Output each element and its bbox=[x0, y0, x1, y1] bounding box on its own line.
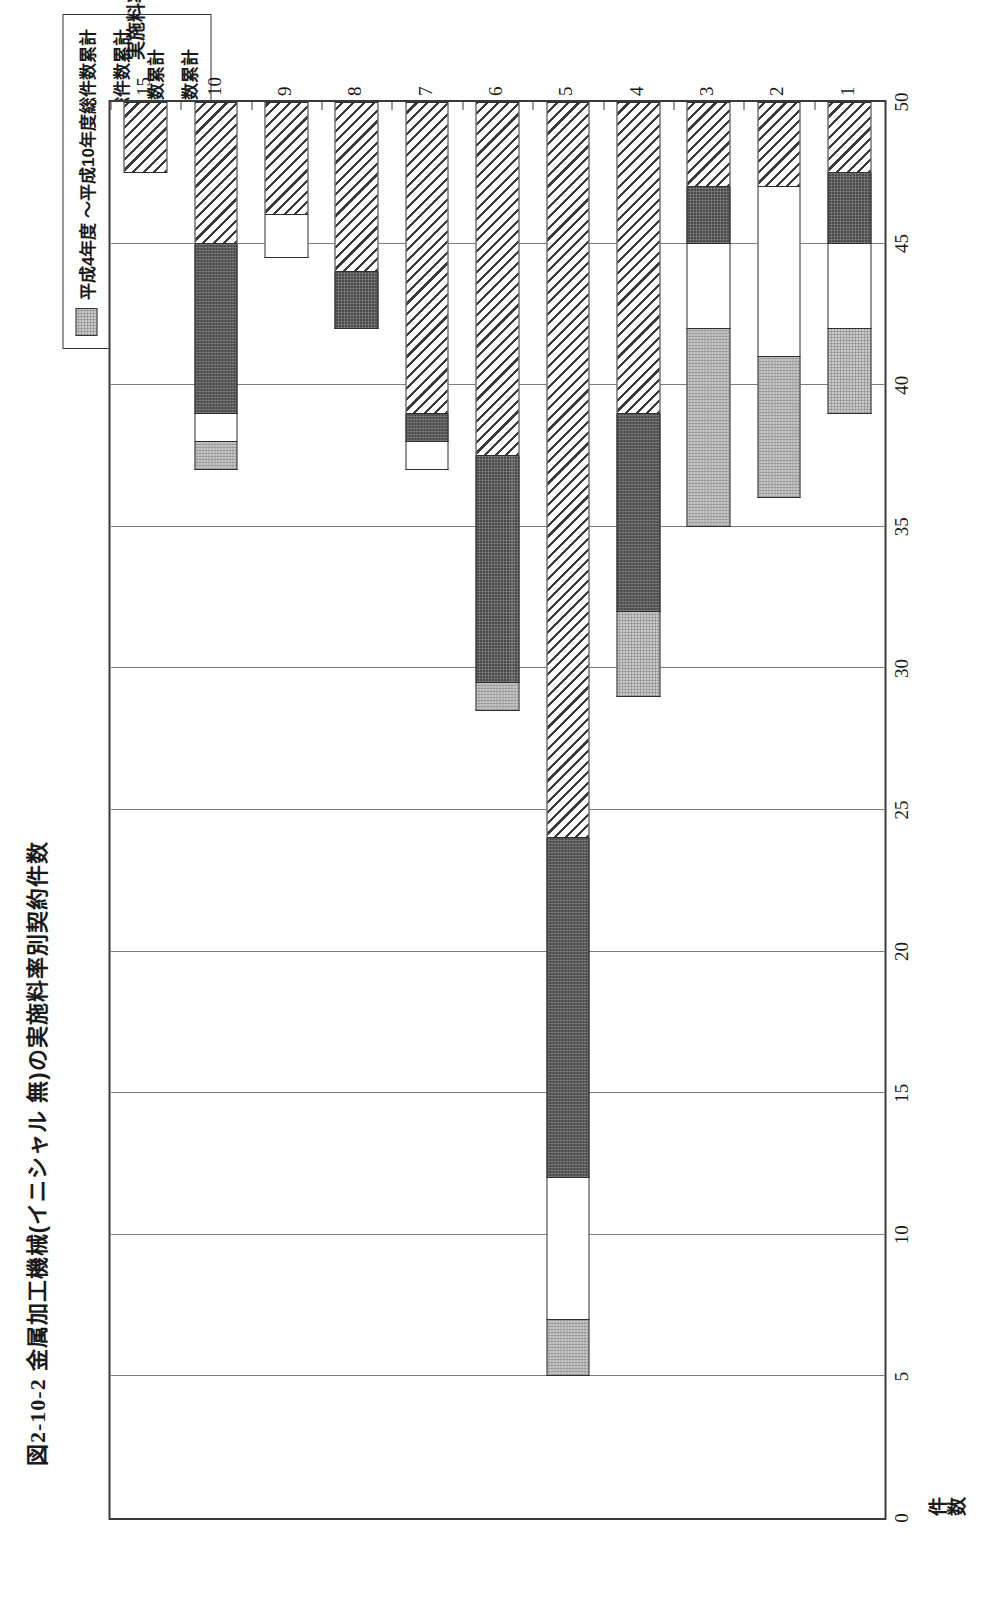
bar-spacer bbox=[264, 258, 308, 1518]
figure-title-text: 金属加工機械(イニシャル 無)の実施料率別契約件数 bbox=[24, 841, 49, 1371]
legend-swatch-gray-checker-icon bbox=[75, 308, 97, 336]
bar-segment bbox=[546, 102, 590, 838]
value-axis-tick-label: 10 bbox=[890, 1225, 912, 1244]
bar-segment bbox=[264, 102, 308, 215]
bar-segment bbox=[405, 442, 449, 470]
bar-segment bbox=[827, 244, 871, 329]
bar-row bbox=[616, 102, 660, 1518]
bar-segment bbox=[194, 244, 238, 414]
value-axis-tick-label: 5 bbox=[890, 1372, 912, 1382]
category-axis-tick-label: 5 bbox=[554, 87, 576, 97]
bar-segment bbox=[194, 414, 238, 442]
bar-segment bbox=[616, 612, 660, 697]
bar-spacer bbox=[405, 470, 449, 1518]
bar-spacer bbox=[686, 527, 730, 1518]
bar-spacer bbox=[475, 711, 519, 1518]
legend-item: 平成4年度 ～平成10年度総件数累計 bbox=[73, 29, 98, 336]
category-axis-tick-label: 15 bbox=[132, 77, 154, 96]
bar-segment bbox=[686, 102, 730, 187]
value-axis-tick-label: 35 bbox=[890, 517, 912, 536]
bar-segment bbox=[475, 683, 519, 711]
bar-row bbox=[827, 102, 871, 1518]
category-axis-title: 実施料率(%) bbox=[120, 0, 147, 60]
category-axis-tick-label: 2 bbox=[765, 87, 787, 97]
bar-row bbox=[334, 102, 378, 1518]
bar-segment bbox=[123, 102, 167, 173]
value-axis-tick-label: 45 bbox=[890, 234, 912, 253]
category-axis-tick-label: 6 bbox=[484, 87, 506, 97]
bar-segment bbox=[827, 173, 871, 244]
bar-segment bbox=[686, 244, 730, 329]
figure-number: 図2-10-2 bbox=[24, 1378, 49, 1466]
bar-spacer bbox=[616, 697, 660, 1518]
bar-segment bbox=[546, 1320, 590, 1377]
figure-stage: 図2-10-2 金属加工機械(イニシャル 無)の実施料率別契約件数 平成4年度 … bbox=[0, 0, 997, 1616]
value-axis-tick-label: 30 bbox=[890, 659, 912, 678]
value-axis-tick-label: 0 bbox=[890, 1513, 912, 1523]
bar-spacer bbox=[334, 329, 378, 1518]
category-axis-tick-label: 4 bbox=[625, 87, 647, 97]
bar-row bbox=[123, 102, 167, 1518]
value-axis-tick-label: 20 bbox=[890, 942, 912, 961]
category-axis-tick-label: 10 bbox=[203, 77, 225, 96]
bar-spacer bbox=[757, 498, 801, 1518]
bar-row bbox=[546, 102, 590, 1518]
bar-series-container bbox=[110, 102, 884, 1518]
bar-segment bbox=[405, 102, 449, 414]
bar-segment bbox=[827, 102, 871, 173]
value-axis-tick-label: 25 bbox=[890, 801, 912, 820]
value-axis-tick-label: 50 bbox=[890, 93, 912, 112]
bar-segment bbox=[546, 838, 590, 1178]
bar-spacer bbox=[546, 1376, 590, 1518]
bar-segment bbox=[757, 187, 801, 357]
bar-segment bbox=[405, 414, 449, 442]
bar-spacer bbox=[194, 470, 238, 1518]
category-axis-tick-labels: 1234567891015 bbox=[108, 50, 886, 96]
value-axis-tick-labels: 05101520253035404550 bbox=[890, 100, 950, 1520]
category-axis-tick-label: 3 bbox=[695, 87, 717, 97]
bar-segment bbox=[686, 329, 730, 527]
category-axis-tick-label: 8 bbox=[343, 87, 365, 97]
figure-title: 図2-10-2 金属加工機械(イニシャル 無)の実施料率別契約件数 bbox=[18, 841, 50, 1466]
bar-segment bbox=[194, 442, 238, 470]
bar-segment bbox=[475, 102, 519, 456]
bar-segment bbox=[334, 272, 378, 329]
bar-segment bbox=[757, 357, 801, 499]
bar-segment bbox=[546, 1178, 590, 1320]
category-axis-tick-label: 1 bbox=[836, 87, 858, 97]
bar-row bbox=[405, 102, 449, 1518]
plot-area bbox=[108, 100, 886, 1520]
bar-segment bbox=[264, 215, 308, 257]
bar-row bbox=[475, 102, 519, 1518]
bar-segment bbox=[616, 414, 660, 612]
category-axis-tick-label: 9 bbox=[273, 87, 295, 97]
bar-row bbox=[686, 102, 730, 1518]
bar-segment bbox=[686, 187, 730, 244]
category-axis-tick-label: 7 bbox=[414, 87, 436, 97]
bar-row bbox=[757, 102, 801, 1518]
bar-segment bbox=[616, 102, 660, 414]
bar-spacer bbox=[123, 173, 167, 1518]
value-axis-tick-label: 40 bbox=[890, 376, 912, 395]
plot-area-wrapper bbox=[108, 100, 886, 1520]
bar-segment bbox=[827, 329, 871, 414]
value-axis-tick-label: 15 bbox=[890, 1084, 912, 1103]
bar-segment bbox=[194, 102, 238, 244]
legend-item-label: 平成4年度 ～平成10年度総件数累計 bbox=[73, 29, 98, 300]
bar-row bbox=[194, 102, 238, 1518]
bar-row bbox=[264, 102, 308, 1518]
bar-spacer bbox=[827, 414, 871, 1518]
bar-segment bbox=[334, 102, 378, 272]
value-axis-title: 件数 bbox=[928, 1486, 966, 1516]
bar-segment bbox=[475, 456, 519, 683]
bar-segment bbox=[757, 102, 801, 187]
